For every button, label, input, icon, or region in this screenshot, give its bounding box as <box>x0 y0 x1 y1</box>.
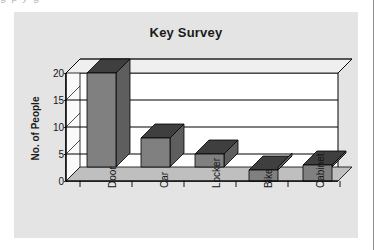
x-category-label-locker: Locker <box>211 158 222 188</box>
bar-car-front <box>141 138 170 167</box>
plot-area <box>14 12 358 238</box>
x-category-label-car: Car <box>159 172 170 188</box>
page-sheet: g p y g Key Survey No. of People 20 15 1… <box>0 0 376 250</box>
bar-door-side <box>116 59 130 167</box>
bar-door <box>87 59 130 167</box>
cut-off-text-above: g p y g <box>0 0 376 8</box>
x-category-label-cabinet: Cabinet <box>315 154 326 188</box>
cut-off-text: g p y g <box>0 0 40 3</box>
chart-figure: Key Survey No. of People 20 15 10 5 0 <box>14 12 358 238</box>
x-category-label-bike: Bike <box>263 169 274 188</box>
bar-door-front <box>87 73 116 167</box>
page-edge-rule <box>373 0 374 250</box>
x-category-label-door: Door <box>107 166 118 188</box>
